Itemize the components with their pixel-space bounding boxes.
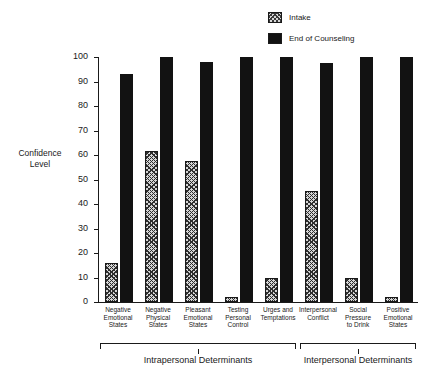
bar-intake [145,151,158,302]
chart-page: Intake End of Counseling Confidence Leve… [0,0,432,384]
bar-end-of-counseling [400,57,413,302]
group-bracket-stem [358,349,359,354]
legend-item-end-of-counseling: End of Counseling [268,31,418,45]
y-axis-line [98,57,99,302]
chart-legend: Intake End of Counseling [268,10,418,52]
y-axis-tick-label: 20 [66,247,88,257]
y-axis-tick: 30 [94,229,98,230]
y-axis-tick-label: 30 [66,223,88,233]
y-axis-tick: 20 [94,253,98,254]
legend-item-intake: Intake [268,10,418,24]
bar-end-of-counseling [360,57,373,302]
plot-area: 0102030405060708090100 Negative Emotiona… [98,57,418,302]
y-axis-tick-label: 40 [66,198,88,208]
x-axis-line [98,302,418,303]
group-label: Interpersonal Determinants [300,355,416,365]
legend-label-end-of-counseling: End of Counseling [289,33,354,44]
bar-end-of-counseling [160,57,173,302]
x-axis-category-label: Positive Emotional States [374,306,422,329]
y-axis-tick: 10 [94,278,98,279]
bar-intake [185,161,198,302]
solid-swatch-icon [268,33,282,44]
y-axis-tick: 0 [94,302,98,303]
y-axis-title-line1: Confidence [8,148,72,159]
y-axis-tick: 40 [94,204,98,205]
y-axis-tick: 80 [94,106,98,107]
group-label: Intrapersonal Determinants [100,355,296,365]
legend-label-intake: Intake [289,12,311,23]
y-axis-tick: 100 [94,57,98,58]
y-axis-tick-mark [94,131,98,132]
y-axis-tick: 60 [94,155,98,156]
y-axis-tick: 50 [94,180,98,181]
y-axis-tick-mark [94,229,98,230]
y-axis-tick-mark [94,106,98,107]
bar-intake [225,297,238,302]
hatched-swatch-icon [268,12,282,23]
y-axis-tick-label: 50 [66,174,88,184]
bar-end-of-counseling [320,63,333,302]
bar-intake [385,297,398,302]
y-axis-tick-label: 10 [66,272,88,282]
y-axis-title: Confidence Level [8,148,72,170]
bar-intake [345,278,358,303]
y-axis-tick-label: 90 [66,76,88,86]
y-axis-tick-mark [94,82,98,83]
y-axis-tick-label: 80 [66,100,88,110]
bar-end-of-counseling [120,74,133,302]
bar-intake [105,263,118,302]
y-axis-tick-mark [94,302,98,303]
y-axis-tick-label: 100 [66,51,88,61]
y-axis-tick: 70 [94,131,98,132]
bar-end-of-counseling [200,62,213,302]
y-axis-tick-label: 60 [66,149,88,159]
y-axis-tick-label: 0 [66,296,88,306]
group-bracket-stem [198,349,199,354]
bar-end-of-counseling [280,57,293,302]
y-axis-title-line2: Level [8,159,72,170]
y-axis-tick-label: 70 [66,125,88,135]
bar-intake [305,191,318,302]
y-axis-tick-mark [94,253,98,254]
y-axis-tick-mark [94,278,98,279]
y-axis-tick-mark [94,155,98,156]
y-axis-tick-mark [94,180,98,181]
bar-intake [265,278,278,303]
y-axis-tick: 90 [94,82,98,83]
y-axis-tick-mark [94,204,98,205]
y-axis-tick-mark [94,57,98,58]
bar-end-of-counseling [240,57,253,302]
